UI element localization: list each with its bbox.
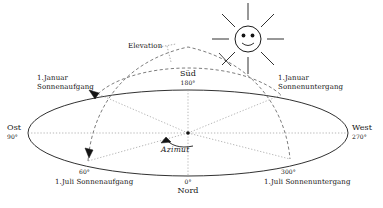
sued-label-group: Süd 180°	[158, 70, 218, 87]
nord-label-group: 0° Nord	[158, 178, 218, 195]
january-sunset-line2: Sonnenuntergang	[278, 83, 343, 92]
west-name: West	[352, 124, 372, 133]
jul-sunrise-arrow	[85, 148, 93, 158]
diagram-canvas	[0, 0, 383, 208]
observer-center-point	[186, 131, 190, 135]
ost-degree: 90°	[7, 133, 21, 142]
radial-jul-sunset	[188, 133, 290, 159]
elevation-label: Elevation	[128, 42, 162, 51]
sun-face-icon	[235, 26, 261, 52]
ost-name: Ost	[7, 124, 21, 133]
january-sunrise-line2: Sonnenaufgang	[37, 83, 94, 92]
elevation-angle-tick	[219, 53, 231, 66]
ost-label-group: Ost 90°	[7, 124, 21, 141]
january-sunrise-line1: 1.Januar	[37, 74, 94, 83]
elevation-tick-line	[167, 46, 171, 62]
july-sunrise-label: 1.Juli Sonnenaufgang	[55, 178, 133, 187]
january-sunset-label: 1.Januar Sonnenuntergang	[278, 74, 343, 91]
july-sun-path-arc	[88, 47, 290, 161]
sun-path-diagram: Elevation Azimut Süd 180° 0° Nord Ost 90…	[0, 0, 383, 208]
sued-name: Süd	[158, 70, 218, 79]
azimut-label: Azimut	[161, 146, 190, 155]
january-sunrise-label: 1.Januar Sonnenaufgang	[37, 74, 94, 91]
july-sunset-degree: 300°	[281, 168, 296, 177]
sun-eye-left-icon	[242, 34, 246, 38]
july-sunset-label: 1.Juli Sonnenuntergang	[264, 178, 351, 187]
radial-jan-sunset	[188, 95, 281, 133]
july-sunrise-degree: 60°	[79, 168, 90, 177]
sun-eye-right-icon	[251, 34, 255, 38]
west-degree: 270°	[352, 133, 372, 142]
radial-jan-sunrise	[98, 94, 188, 133]
nord-name: Nord	[158, 187, 218, 196]
sued-degree: 180°	[158, 79, 218, 88]
west-label-group: West 270°	[352, 124, 372, 141]
january-sunset-line1: 1.Januar	[278, 74, 343, 83]
